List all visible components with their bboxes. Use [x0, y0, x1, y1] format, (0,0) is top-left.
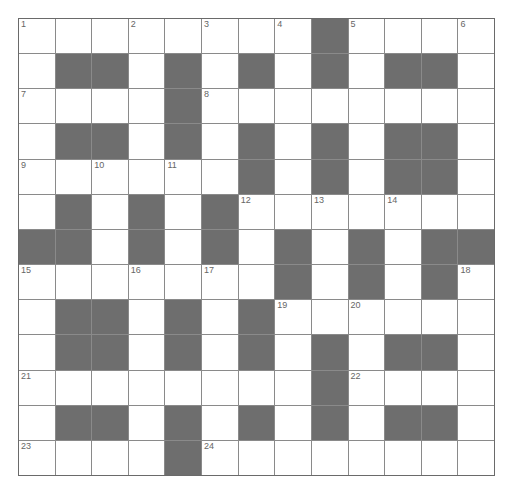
answer-cell[interactable]	[312, 441, 348, 475]
answer-cell[interactable]	[275, 54, 311, 88]
answer-cell[interactable]	[458, 54, 494, 88]
answer-cell[interactable]	[56, 265, 92, 299]
answer-cell[interactable]	[129, 371, 165, 405]
answer-cell[interactable]	[275, 335, 311, 369]
answer-cell[interactable]	[275, 441, 311, 475]
answer-cell[interactable]	[239, 89, 275, 123]
answer-cell[interactable]	[312, 265, 348, 299]
answer-cell[interactable]	[422, 371, 458, 405]
answer-cell[interactable]: 15	[19, 265, 55, 299]
answer-cell[interactable]	[458, 335, 494, 369]
answer-cell[interactable]	[165, 265, 201, 299]
answer-cell[interactable]	[165, 195, 201, 229]
answer-cell[interactable]	[458, 406, 494, 440]
answer-cell[interactable]	[92, 230, 128, 264]
answer-cell[interactable]	[202, 54, 238, 88]
answer-cell[interactable]	[19, 300, 55, 334]
answer-cell[interactable]	[458, 89, 494, 123]
answer-cell[interactable]	[385, 19, 421, 53]
answer-cell[interactable]	[92, 19, 128, 53]
answer-cell[interactable]	[385, 371, 421, 405]
answer-cell[interactable]	[275, 406, 311, 440]
answer-cell[interactable]	[458, 441, 494, 475]
answer-cell[interactable]	[422, 300, 458, 334]
answer-cell[interactable]	[349, 89, 385, 123]
answer-cell[interactable]: 24	[202, 441, 238, 475]
answer-cell[interactable]	[129, 160, 165, 194]
answer-cell[interactable]	[275, 124, 311, 158]
answer-cell[interactable]	[92, 89, 128, 123]
answer-cell[interactable]: 13	[312, 195, 348, 229]
answer-cell[interactable]: 14	[385, 195, 421, 229]
answer-cell[interactable]	[239, 265, 275, 299]
answer-cell[interactable]	[239, 441, 275, 475]
answer-cell[interactable]	[275, 371, 311, 405]
answer-cell[interactable]	[202, 160, 238, 194]
answer-cell[interactable]	[422, 19, 458, 53]
answer-cell[interactable]	[202, 124, 238, 158]
answer-cell[interactable]	[19, 54, 55, 88]
answer-cell[interactable]	[56, 160, 92, 194]
answer-cell[interactable]: 10	[92, 160, 128, 194]
answer-cell[interactable]	[19, 406, 55, 440]
answer-cell[interactable]	[349, 406, 385, 440]
answer-cell[interactable]: 8	[202, 89, 238, 123]
answer-cell[interactable]	[56, 441, 92, 475]
answer-cell[interactable]	[458, 160, 494, 194]
answer-cell[interactable]	[129, 335, 165, 369]
answer-cell[interactable]	[349, 54, 385, 88]
answer-cell[interactable]	[56, 371, 92, 405]
answer-cell[interactable]	[129, 441, 165, 475]
answer-cell[interactable]	[129, 89, 165, 123]
answer-cell[interactable]	[385, 89, 421, 123]
answer-cell[interactable]	[19, 195, 55, 229]
answer-cell[interactable]	[422, 441, 458, 475]
answer-cell[interactable]	[239, 230, 275, 264]
answer-cell[interactable]: 7	[19, 89, 55, 123]
answer-cell[interactable]: 3	[202, 19, 238, 53]
answer-cell[interactable]	[349, 441, 385, 475]
answer-cell[interactable]	[422, 195, 458, 229]
answer-cell[interactable]	[275, 89, 311, 123]
answer-cell[interactable]: 6	[458, 19, 494, 53]
answer-cell[interactable]: 5	[349, 19, 385, 53]
answer-cell[interactable]	[422, 89, 458, 123]
answer-cell[interactable]	[275, 160, 311, 194]
answer-cell[interactable]	[129, 54, 165, 88]
answer-cell[interactable]: 9	[19, 160, 55, 194]
answer-cell[interactable]	[458, 124, 494, 158]
answer-cell[interactable]: 12	[239, 195, 275, 229]
answer-cell[interactable]	[56, 89, 92, 123]
answer-cell[interactable]: 21	[19, 371, 55, 405]
answer-cell[interactable]	[92, 371, 128, 405]
answer-cell[interactable]: 1	[19, 19, 55, 53]
answer-cell[interactable]: 18	[458, 265, 494, 299]
answer-cell[interactable]	[92, 195, 128, 229]
answer-cell[interactable]	[19, 335, 55, 369]
answer-cell[interactable]	[458, 195, 494, 229]
answer-cell[interactable]	[165, 19, 201, 53]
answer-cell[interactable]	[129, 300, 165, 334]
answer-cell[interactable]	[312, 300, 348, 334]
answer-cell[interactable]	[165, 371, 201, 405]
answer-cell[interactable]: 11	[165, 160, 201, 194]
answer-cell[interactable]	[458, 371, 494, 405]
answer-cell[interactable]	[202, 300, 238, 334]
answer-cell[interactable]	[275, 195, 311, 229]
answer-cell[interactable]	[129, 406, 165, 440]
answer-cell[interactable]	[349, 160, 385, 194]
answer-cell[interactable]	[92, 441, 128, 475]
answer-cell[interactable]	[56, 19, 92, 53]
answer-cell[interactable]: 17	[202, 265, 238, 299]
answer-cell[interactable]	[349, 335, 385, 369]
answer-cell[interactable]	[202, 406, 238, 440]
answer-cell[interactable]: 23	[19, 441, 55, 475]
answer-cell[interactable]: 2	[129, 19, 165, 53]
answer-cell[interactable]: 20	[349, 300, 385, 334]
answer-cell[interactable]	[385, 300, 421, 334]
answer-cell[interactable]	[349, 124, 385, 158]
answer-cell[interactable]	[312, 89, 348, 123]
answer-cell[interactable]	[92, 265, 128, 299]
answer-cell[interactable]	[239, 371, 275, 405]
answer-cell[interactable]	[202, 371, 238, 405]
